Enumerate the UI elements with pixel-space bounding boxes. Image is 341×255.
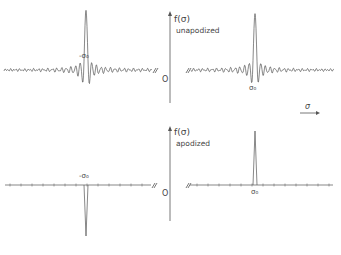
top-y-arrow-icon [168,11,172,16]
bottom-break-left-icon [152,183,157,188]
bottom-caption: apodized [176,139,210,148]
top-origin-label: O [162,75,168,84]
top-unapodized-signal [4,10,334,83]
bottom-break-right-icon [186,183,191,188]
bottom-y-label: f(σ) [174,127,190,137]
x-arrowhead-icon [316,111,320,115]
top-caption: unapodized [176,26,220,35]
x-axis-label: σ [305,102,311,111]
bottom-origin-label: O [162,189,168,198]
top-break-right-icon [186,68,191,73]
top-pos-peak-label: σ₀ [249,84,256,92]
top-break-left-icon [153,68,158,73]
spectrum-diagram: f(σ) unapodized O -σ₀ σ₀ σ f(σ) apodized… [0,0,341,255]
top-panel [4,10,334,103]
bottom-neg-peak-label: -σ₀ [79,172,89,180]
top-y-label: f(σ) [174,14,190,24]
bottom-y-arrow-icon [168,126,172,131]
bottom-pos-peak-label: σ₀ [251,188,258,196]
bottom-panel [5,126,333,236]
top-neg-peak-label: -σ₀ [79,52,89,60]
